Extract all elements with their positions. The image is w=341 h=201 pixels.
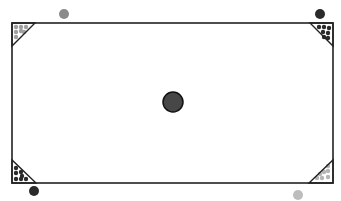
corner-dot [320, 176, 324, 180]
corner-dot [14, 177, 18, 181]
corner-dot [322, 25, 326, 29]
corner-dot [14, 171, 18, 175]
corner-dot [24, 177, 28, 181]
game-board [0, 0, 341, 201]
corner-dot [14, 166, 18, 170]
bottom-left-ball[interactable] [29, 186, 39, 196]
corner-dot [317, 25, 321, 29]
corner-dot [14, 35, 18, 39]
corner-dot [20, 174, 24, 178]
top-right-ball[interactable] [315, 9, 325, 19]
corner-dot [326, 175, 330, 179]
corner-dot [14, 30, 18, 34]
bottom-right-ball[interactable] [293, 190, 303, 200]
corner-dot [19, 25, 23, 29]
corner-dot [326, 169, 330, 173]
center-ball[interactable] [163, 92, 183, 112]
top-left-ball[interactable] [59, 9, 69, 19]
corner-dot [326, 31, 330, 35]
corner-dot [327, 26, 331, 30]
corner-dot [24, 25, 28, 29]
corner-dot [14, 25, 18, 29]
